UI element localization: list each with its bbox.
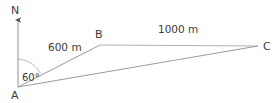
bearing-diagram: N A B C 600 m 1000 m 60°: [0, 0, 277, 103]
label-vertex-a: A: [11, 89, 19, 102]
label-length-bc: 1000 m: [158, 23, 198, 35]
label-angle-60: 60°: [22, 72, 40, 83]
segment-bc-line: [100, 45, 258, 46]
label-length-ab: 600 m: [48, 41, 82, 53]
label-vertex-b: B: [95, 28, 103, 41]
label-north: N: [11, 4, 19, 17]
label-vertex-c: C: [263, 40, 271, 53]
diagram-canvas: N A B C 600 m 1000 m 60°: [0, 0, 277, 103]
